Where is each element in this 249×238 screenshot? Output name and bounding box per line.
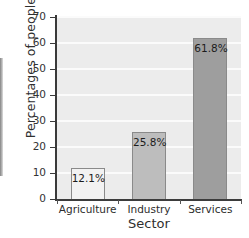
- scan-edge-artifact: [0, 58, 3, 176]
- y-axis-tick-label: 20: [20, 140, 46, 152]
- y-axis-tick-mark: [50, 173, 56, 174]
- y-axis-tick-mark: [50, 95, 56, 96]
- plot-inner: 12.1%25.8%61.8%: [57, 17, 241, 199]
- y-axis-tick-label: 50: [20, 62, 46, 74]
- bar-value-label: 12.1%: [72, 172, 104, 184]
- y-axis-tick-label: 40: [20, 88, 46, 100]
- y-axis-tick-mark: [50, 17, 56, 18]
- x-axis-line: [55, 199, 242, 201]
- y-axis-tick-mark: [50, 147, 56, 148]
- y-axis-tick-mark: [50, 43, 56, 44]
- y-axis-tick-mark: [50, 199, 56, 200]
- y-axis-tick-label: 60: [20, 36, 46, 48]
- bar-value-label: 61.8%: [194, 42, 226, 54]
- y-axis-tick-label: 30: [20, 114, 46, 126]
- plot-area: 12.1%25.8%61.8%: [57, 17, 241, 199]
- gridline: [57, 16, 241, 18]
- y-axis-tick-label: 70: [20, 10, 46, 22]
- x-axis-tick-label: Agriculture: [57, 203, 118, 215]
- y-axis-title: Percentages of people: [23, 0, 38, 153]
- y-axis-tick-label: 10: [20, 166, 46, 178]
- y-axis-tick-mark: [50, 121, 56, 122]
- x-axis-tick-mark: [241, 200, 242, 204]
- x-axis-title: Sector: [57, 216, 241, 231]
- bar-value-label: 25.8%: [133, 136, 165, 148]
- y-axis-tick-mark: [50, 69, 56, 70]
- x-axis-tick-label: Industry: [118, 203, 179, 215]
- y-axis-tick-label: 0: [20, 192, 46, 204]
- bar: 12.1%: [71, 168, 105, 199]
- bar-chart-figure: Percentages of people 12.1%25.8%61.8% Se…: [0, 0, 249, 238]
- bar: 61.8%: [193, 38, 227, 199]
- bar: 25.8%: [132, 132, 166, 199]
- x-axis-tick-label: Services: [180, 203, 241, 215]
